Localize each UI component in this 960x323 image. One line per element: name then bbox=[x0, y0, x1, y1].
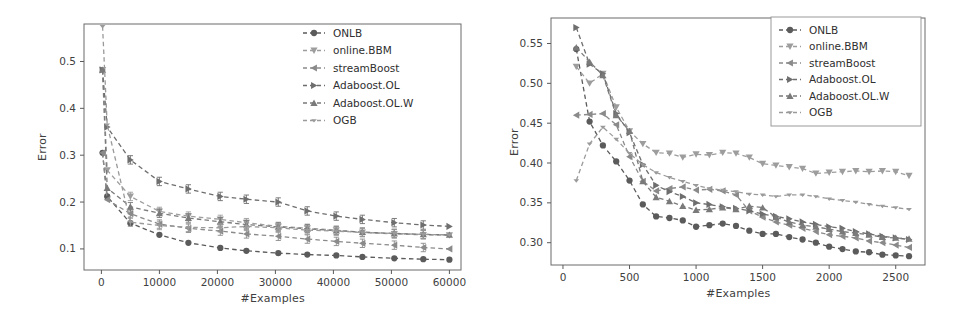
legend-marker-icon bbox=[787, 27, 793, 33]
data-point-marker bbox=[333, 252, 339, 258]
y-axis-label-right: Error bbox=[508, 128, 521, 156]
y-tick-label: 0.35 bbox=[520, 196, 543, 208]
legend-label: streamBoost bbox=[333, 62, 399, 74]
series-line bbox=[103, 70, 450, 235]
legend-item-ogb[interactable]: OGB bbox=[303, 114, 357, 126]
data-point-marker bbox=[359, 254, 365, 260]
data-point-marker bbox=[720, 220, 726, 226]
x-tick-label: 2000 bbox=[816, 271, 843, 283]
x-tick-label: 50000 bbox=[375, 276, 408, 288]
plot-frame bbox=[84, 24, 461, 270]
data-point-marker bbox=[446, 223, 452, 230]
data-point-marker bbox=[217, 245, 223, 251]
data-point-marker bbox=[573, 112, 579, 119]
legend-marker-icon bbox=[311, 64, 317, 71]
legend-marker-icon bbox=[311, 30, 317, 36]
legend-marker-icon bbox=[311, 82, 317, 89]
data-point-marker bbox=[680, 180, 686, 183]
legend-label: Adaboost.OL bbox=[809, 73, 876, 85]
legend-box bbox=[771, 17, 921, 126]
data-point-marker bbox=[853, 248, 859, 254]
series-online-bbm bbox=[99, 67, 453, 239]
legend-item-streamboost[interactable]: streamBoost bbox=[303, 62, 399, 74]
x-tick-label: 2500 bbox=[882, 271, 909, 283]
data-point-marker bbox=[680, 193, 686, 200]
data-point-marker bbox=[906, 253, 912, 259]
data-point-marker bbox=[892, 169, 899, 175]
y-axis-label-left: Error bbox=[36, 133, 49, 161]
data-point-marker bbox=[866, 237, 872, 244]
data-point-marker bbox=[879, 239, 885, 246]
data-point-marker bbox=[420, 256, 426, 262]
x-tick-label: 500 bbox=[620, 271, 640, 283]
data-point-marker bbox=[586, 80, 593, 86]
data-point-marker bbox=[893, 252, 899, 258]
x-tick-label: 60000 bbox=[433, 276, 466, 288]
y-tick-label: 0.4 bbox=[59, 102, 76, 114]
data-point-marker bbox=[666, 215, 672, 221]
x-tick-label: 1000 bbox=[683, 271, 710, 283]
series-adaboost-ol bbox=[100, 66, 453, 230]
legend-label: OGB bbox=[333, 114, 357, 126]
data-point-marker bbox=[156, 232, 162, 238]
y-tick-label: 0.2 bbox=[59, 196, 76, 208]
data-point-marker bbox=[185, 240, 191, 246]
legend-label: Adaboost.OL.W bbox=[333, 97, 414, 109]
x-tick-label: 10000 bbox=[143, 276, 176, 288]
data-point-marker bbox=[906, 244, 912, 251]
data-point-marker bbox=[626, 177, 632, 183]
data-point-marker bbox=[640, 201, 646, 207]
legend-label: ONLB bbox=[333, 27, 362, 39]
y-tick-label: 0.40 bbox=[520, 157, 543, 169]
legend-label: Adaboost.OL bbox=[333, 79, 400, 91]
data-point-marker bbox=[127, 203, 134, 209]
legend-item-adaboost-ol[interactable]: Adaboost.OL bbox=[303, 79, 400, 91]
legend-label: ONLB bbox=[809, 24, 838, 36]
data-point-marker bbox=[653, 213, 659, 219]
legend: ONLBonline.BBMstreamBoostAdaboost.OLAdab… bbox=[771, 17, 921, 126]
data-point-marker bbox=[813, 240, 819, 246]
x-tick-label: 0 bbox=[560, 271, 567, 283]
legend-item-online-bbm[interactable]: online.BBM bbox=[303, 44, 392, 56]
legend-label: streamBoost bbox=[809, 57, 875, 69]
data-point-marker bbox=[391, 255, 397, 261]
legend-item-adaboost-ol-w[interactable]: Adaboost.OL.W bbox=[303, 97, 414, 109]
legend-item-onlb[interactable]: ONLB bbox=[303, 27, 362, 39]
legend-label: online.BBM bbox=[809, 40, 868, 52]
data-point-marker bbox=[679, 154, 686, 160]
legend-label: OGB bbox=[809, 106, 833, 118]
data-point-marker bbox=[573, 179, 579, 182]
data-point-marker bbox=[693, 184, 699, 187]
chart-panel-left: 01000020000300004000050000600000.10.20.3… bbox=[0, 0, 480, 323]
data-point-marker bbox=[586, 111, 592, 118]
data-point-marker bbox=[586, 118, 592, 124]
y-tick-label: 0.30 bbox=[520, 236, 543, 248]
data-point-marker bbox=[826, 231, 832, 238]
series-line bbox=[103, 70, 450, 235]
figure-root: 01000020000300004000050000600000.10.20.3… bbox=[0, 0, 960, 323]
data-point-marker bbox=[275, 250, 281, 256]
data-point-marker bbox=[786, 234, 792, 240]
legend: ONLBonline.BBMstreamBoostAdaboost.OLAdab… bbox=[303, 27, 414, 127]
x-tick-label: 0 bbox=[98, 276, 105, 288]
data-point-marker bbox=[773, 231, 779, 237]
data-point-marker bbox=[680, 217, 686, 223]
data-series-group bbox=[99, 25, 453, 263]
x-tick-label: 20000 bbox=[201, 276, 234, 288]
data-point-marker bbox=[446, 245, 452, 252]
data-point-marker bbox=[733, 223, 739, 229]
data-point-marker bbox=[100, 25, 106, 28]
plot-svg-left: 01000020000300004000050000600000.10.20.3… bbox=[0, 0, 480, 323]
y-tick-label: 0.3 bbox=[59, 149, 76, 161]
data-point-marker bbox=[679, 183, 685, 190]
data-point-marker bbox=[693, 224, 699, 230]
data-point-marker bbox=[826, 244, 832, 250]
data-point-marker bbox=[799, 236, 805, 242]
data-point-marker bbox=[746, 193, 752, 196]
data-point-marker bbox=[304, 251, 310, 257]
x-axis-label-left: #Examples bbox=[241, 292, 305, 305]
data-point-marker bbox=[866, 249, 872, 255]
y-tick-label: 0.5 bbox=[59, 55, 76, 67]
data-point-marker bbox=[746, 228, 752, 234]
data-point-marker bbox=[599, 110, 605, 117]
